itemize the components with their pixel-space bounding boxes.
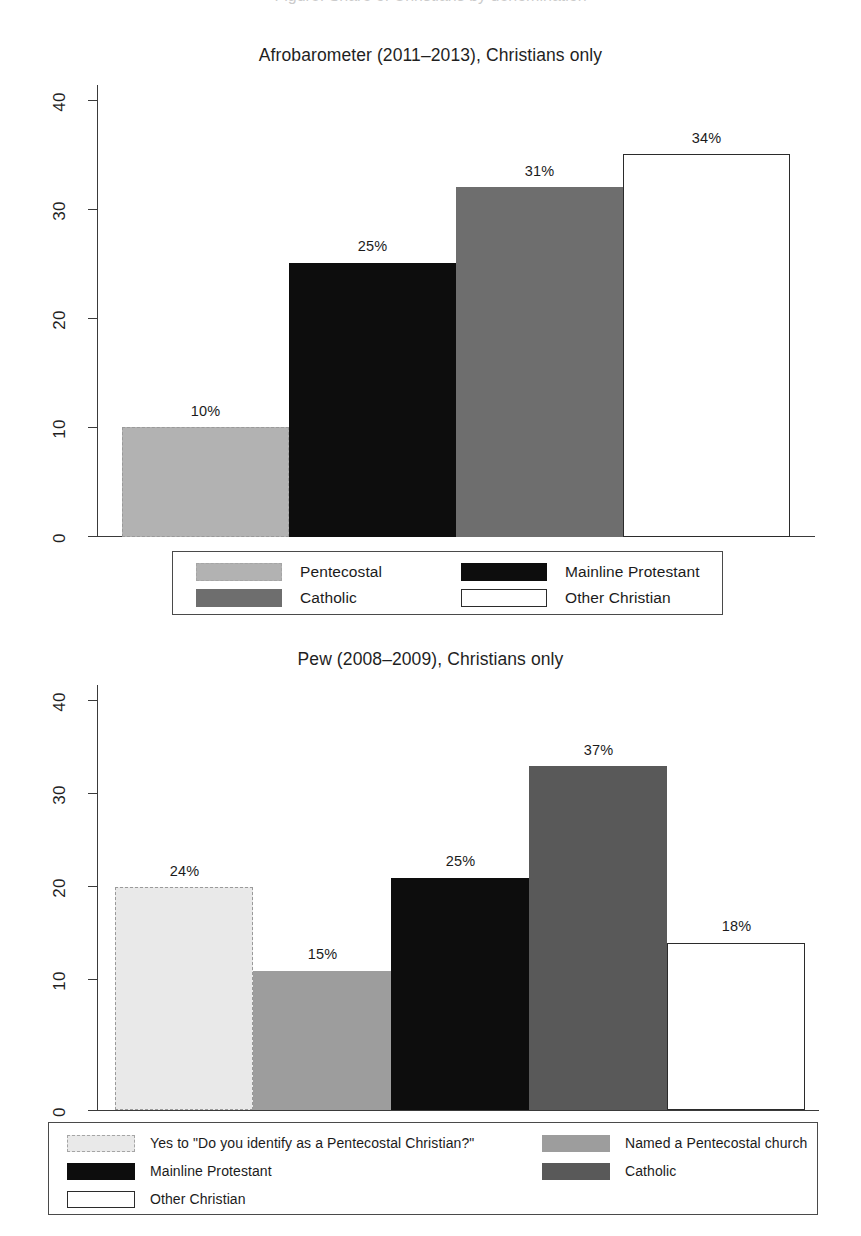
- chart-title-afrobarometer: Afrobarometer (2011–2013), Christians on…: [0, 45, 861, 66]
- y-tick-2-20: [88, 886, 97, 887]
- legend-label-mainline-protestant-pew: Mainline Protestant: [150, 1163, 272, 1179]
- bar-label-other-christian: 34%: [651, 130, 762, 146]
- bar-label-pentecostal: 10%: [150, 403, 261, 419]
- bar-label-identify-pentecostal: 24%: [129, 863, 240, 879]
- legend-swatch-mainline-protestant: [461, 563, 547, 581]
- legend-row-named-pentecostal-church[interactable]: Named a Pentecostal church: [542, 1131, 812, 1155]
- y-tick-label-1-40: 40: [50, 86, 70, 118]
- legend-row-mainline-protestant-pew[interactable]: Mainline Protestant: [67, 1159, 537, 1183]
- chart-panel-afrobarometer: Afrobarometer (2011–2013), Christians on…: [0, 0, 861, 625]
- legend-label-pentecostal: Pentecostal: [300, 563, 382, 581]
- y-tick-label-1-30: 30: [50, 195, 70, 227]
- legend-row-catholic[interactable]: Catholic: [196, 586, 446, 610]
- y-tick-1-10: [88, 427, 97, 428]
- legend-label-named-pentecostal-church: Named a Pentecostal church: [625, 1135, 807, 1151]
- legend-swatch-named-pentecostal-church: [542, 1135, 610, 1152]
- y-tick-2-40: [88, 700, 97, 701]
- legend-row-catholic-pew[interactable]: Catholic: [542, 1159, 812, 1183]
- legend-label-identify-pentecostal: Yes to "Do you identify as a Pentecostal…: [150, 1135, 474, 1151]
- bar-label-other-christian-pew: 18%: [681, 918, 792, 934]
- bar-mainline-protestant-pew[interactable]: [391, 878, 529, 1111]
- y-tick-1-40: [88, 100, 97, 101]
- y-tick-1-0: [88, 536, 97, 537]
- bar-pentecostal[interactable]: [122, 427, 289, 537]
- bar-label-named-pentecostal-church: 15%: [267, 946, 378, 962]
- y-tick-2-0: [88, 1110, 97, 1111]
- legend-label-catholic-pew: Catholic: [625, 1163, 676, 1179]
- chart-title-pew: Pew (2008–2009), Christians only: [0, 649, 861, 670]
- y-tick-label-2-20: 20: [50, 872, 70, 904]
- legend-swatch-catholic: [196, 589, 282, 607]
- legend-label-other-christian: Other Christian: [565, 589, 671, 607]
- x-axis-line-2: [97, 1110, 819, 1111]
- y-tick-label-2-30: 30: [50, 779, 70, 811]
- y-tick-label-1-0: 0: [50, 522, 70, 554]
- y-tick-2-30: [88, 793, 97, 794]
- legend-label-mainline-protestant: Mainline Protestant: [565, 563, 700, 581]
- bar-catholic-pew[interactable]: [529, 766, 667, 1110]
- legend-row-identify-pentecostal[interactable]: Yes to "Do you identify as a Pentecostal…: [67, 1131, 537, 1155]
- legend-row-mainline-protestant[interactable]: Mainline Protestant: [461, 560, 716, 584]
- bar-label-mainline-protestant: 25%: [317, 238, 428, 254]
- legend-row-other-christian-pew[interactable]: Other Christian: [67, 1187, 537, 1211]
- bar-catholic[interactable]: [456, 187, 623, 537]
- y-axis-line-1: [97, 85, 98, 537]
- legend-afrobarometer: Pentecostal Mainline Protestant Catholic…: [172, 551, 723, 615]
- y-tick-2-10: [88, 979, 97, 980]
- legend-swatch-identify-pentecostal: [67, 1135, 135, 1152]
- legend-swatch-catholic-pew: [542, 1163, 610, 1180]
- bar-label-catholic-pew: 37%: [543, 742, 654, 758]
- bar-label-mainline-protestant-pew: 25%: [405, 853, 516, 869]
- bar-mainline-protestant[interactable]: [289, 263, 456, 537]
- legend-pew: Yes to "Do you identify as a Pentecostal…: [48, 1122, 818, 1215]
- legend-row-other-christian[interactable]: Other Christian: [461, 586, 716, 610]
- y-tick-label-1-20: 20: [50, 304, 70, 336]
- bar-other-christian-pew[interactable]: [667, 943, 805, 1110]
- y-tick-label-2-40: 40: [50, 686, 70, 718]
- legend-swatch-other-christian: [461, 589, 547, 607]
- legend-label-other-christian-pew: Other Christian: [150, 1191, 246, 1207]
- y-tick-1-30: [88, 209, 97, 210]
- legend-row-pentecostal[interactable]: Pentecostal: [196, 560, 446, 584]
- y-tick-label-1-10: 10: [50, 413, 70, 445]
- y-axis-line-2: [97, 685, 98, 1110]
- y-tick-label-2-10: 10: [50, 965, 70, 997]
- bar-named-pentecostal-church[interactable]: [253, 971, 391, 1111]
- legend-swatch-mainline-protestant-pew: [67, 1163, 135, 1180]
- legend-label-catholic: Catholic: [300, 589, 357, 607]
- bar-other-christian[interactable]: [623, 154, 790, 537]
- bar-identify-pentecostal[interactable]: [115, 887, 253, 1110]
- legend-swatch-other-christian-pew: [67, 1191, 135, 1208]
- y-tick-1-20: [88, 318, 97, 319]
- chart-panel-pew: Pew (2008–2009), Christians only 0 10 20…: [0, 625, 861, 1236]
- bar-label-catholic: 31%: [484, 163, 595, 179]
- legend-swatch-pentecostal: [196, 563, 282, 581]
